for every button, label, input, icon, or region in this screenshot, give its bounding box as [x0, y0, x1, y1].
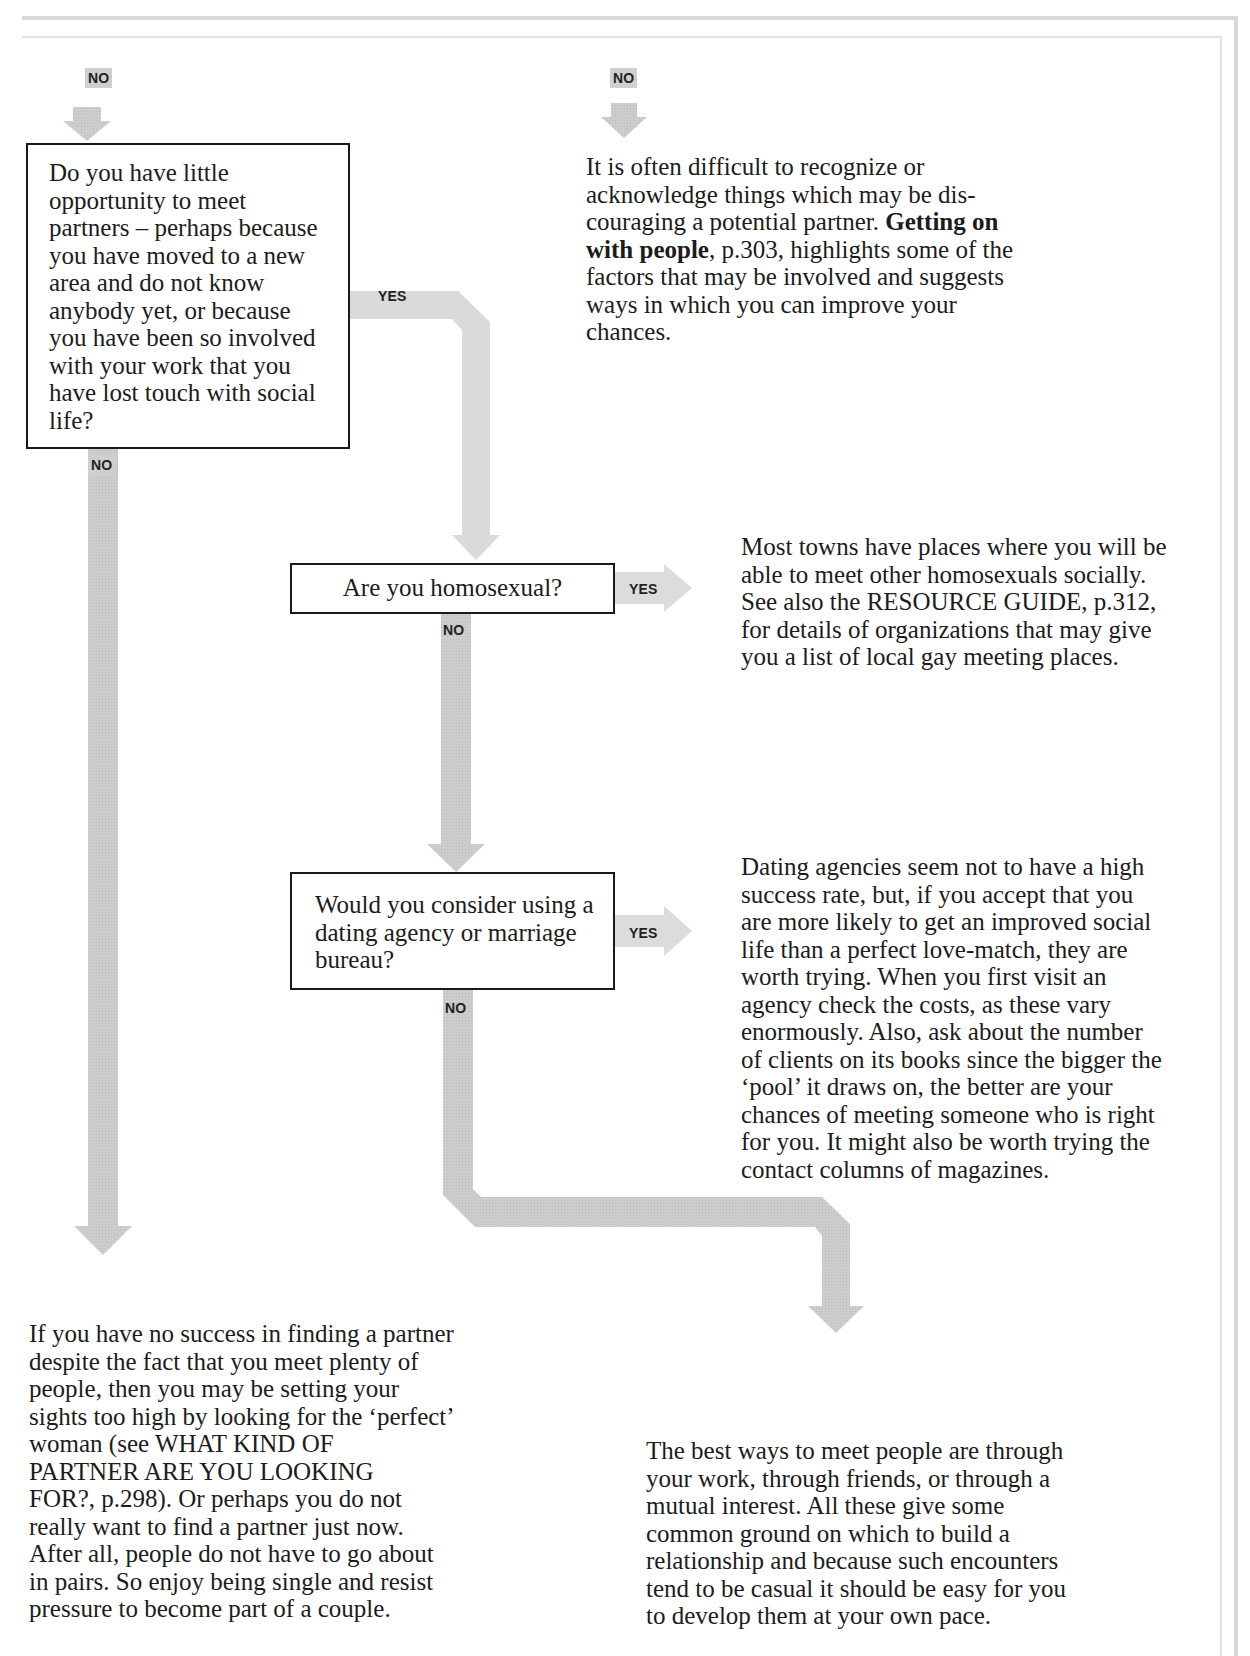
- cross-reference-link[interactable]: Getting on: [885, 208, 998, 235]
- answer-line: Dating agencies seem not to have a high: [741, 853, 1162, 881]
- no-label: NO: [85, 68, 112, 88]
- question-line: with your work that you: [49, 352, 348, 380]
- question-line: dating agency or marriage: [315, 919, 613, 947]
- cross-reference-link[interactable]: with people: [586, 236, 709, 263]
- answer-line: in pairs. So enjoy being single and resi…: [29, 1568, 455, 1596]
- answer-line: woman (see WHAT KIND OF: [29, 1430, 455, 1458]
- answer-line: with people, p.303, highlights some of t…: [586, 236, 1013, 264]
- answer-line: If you have no success in finding a part…: [29, 1320, 455, 1348]
- no-label: NO: [610, 68, 637, 88]
- question-box-homosexual: Are you homosexual?: [290, 563, 615, 614]
- answer-line: couraging a potential partner. Getting o…: [586, 208, 1013, 236]
- question-line: bureau?: [315, 946, 613, 974]
- answer-line: acknowledge things which may be dis-: [586, 181, 1013, 209]
- answer-line: contact columns of magazines.: [741, 1156, 1162, 1184]
- answer-line: despite the fact that you meet plenty of: [29, 1348, 455, 1376]
- answer-line: mutual interest. All these give some: [646, 1492, 1066, 1520]
- answer-line: factors that may be involved and suggest…: [586, 263, 1013, 291]
- answer-gay-meeting-places: Most towns have places where you will be…: [741, 533, 1167, 671]
- arrow-down-icon: [63, 107, 111, 141]
- answer-line: of clients on its books since the bigger…: [741, 1046, 1162, 1074]
- answer-line: are more likely to get an improved socia…: [741, 908, 1162, 936]
- no-label: NO: [440, 620, 467, 640]
- question-line: anybody yet, or because: [49, 297, 348, 325]
- question-line: Do you have little: [49, 159, 348, 187]
- answer-line: for you. It might also be worth trying t…: [741, 1128, 1162, 1156]
- answer-line: relationship and because such encounters: [646, 1547, 1066, 1575]
- answer-line: Most towns have places where you will be: [741, 533, 1167, 561]
- question-line: area and do not know: [49, 269, 348, 297]
- question-line: life?: [49, 407, 348, 435]
- answer-line: able to meet other homosexuals socially.: [741, 561, 1167, 589]
- answer-line: FOR?, p.298). Or perhaps you do not: [29, 1485, 455, 1513]
- answer-line: PARTNER ARE YOU LOOKING: [29, 1458, 455, 1486]
- answer-line: people, then you may be setting your: [29, 1375, 455, 1403]
- answer-line: chances of meeting someone who is right: [741, 1101, 1162, 1129]
- answer-line: See also the RESOURCE GUIDE, p.312,: [741, 588, 1167, 616]
- question-box-dating-agency: Would you consider using a dating agency…: [290, 872, 615, 990]
- question-line: you have been so involved: [49, 324, 348, 352]
- answer-dating-agencies: Dating agencies seem not to have a high …: [741, 853, 1162, 1183]
- answer-line: enormously. Also, ask about the number: [741, 1018, 1162, 1046]
- answer-line: sights too high by looking for the ‘perf…: [29, 1403, 455, 1431]
- yes-path-arrow: [349, 291, 500, 560]
- answer-text: , p.303, highlights some of the: [709, 236, 1013, 263]
- no-path-arrow-long: [74, 448, 132, 1255]
- answer-line: ‘pool’ it draws on, the better are your: [741, 1073, 1162, 1101]
- question-line: Would you consider using a: [315, 891, 613, 919]
- answer-line: After all, people do not have to go abou…: [29, 1540, 455, 1568]
- question-line: partners – perhaps because: [49, 214, 348, 242]
- question-box-opportunity: Do you have little opportunity to meet p…: [26, 143, 350, 449]
- answer-line: common ground on which to build a: [646, 1520, 1066, 1548]
- answer-line: tend to be casual it should be easy for …: [646, 1575, 1066, 1603]
- question-line: opportunity to meet: [49, 187, 348, 215]
- answer-no-success: If you have no success in finding a part…: [29, 1320, 455, 1623]
- no-label: NO: [88, 455, 115, 475]
- yes-label: YES: [626, 923, 661, 943]
- question-line: have lost touch with social: [49, 379, 348, 407]
- yes-label: YES: [375, 286, 410, 306]
- question-text: Are you homosexual?: [292, 574, 613, 602]
- answer-line: success rate, but, if you accept that yo…: [741, 881, 1162, 909]
- yes-label: YES: [626, 579, 661, 599]
- answer-best-ways: The best ways to meet people are through…: [646, 1437, 1066, 1630]
- answer-line: your work, through friends, or through a: [646, 1465, 1066, 1493]
- answer-line: pressure to become part of a couple.: [29, 1595, 455, 1623]
- answer-line: chances.: [586, 318, 1013, 346]
- answer-line: to develop them at your own pace.: [646, 1602, 1066, 1630]
- answer-line: life than a perfect love-match, they are: [741, 936, 1162, 964]
- answer-recognize-discouraging: It is often difficult to recognize or ac…: [586, 153, 1013, 346]
- answer-line: agency check the costs, as these vary: [741, 991, 1162, 1019]
- question-line: you have moved to a new: [49, 242, 348, 270]
- answer-line: The best ways to meet people are through: [646, 1437, 1066, 1465]
- answer-line: ways in which you can improve your: [586, 291, 1013, 319]
- answer-text: couraging a potential partner.: [586, 208, 885, 235]
- no-label: NO: [442, 998, 469, 1018]
- answer-line: really want to find a partner just now.: [29, 1513, 455, 1541]
- no-path-arrow: [427, 613, 485, 872]
- answer-line: you a list of local gay meeting places.: [741, 643, 1167, 671]
- answer-line: worth trying. When you first visit an: [741, 963, 1162, 991]
- answer-line: for details of organizations that may gi…: [741, 616, 1167, 644]
- arrow-down-icon: [601, 103, 647, 138]
- answer-line: It is often difficult to recognize or: [586, 153, 1013, 181]
